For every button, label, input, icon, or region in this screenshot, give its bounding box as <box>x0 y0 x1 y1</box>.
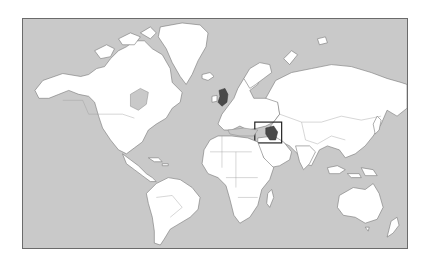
iceland <box>202 73 214 81</box>
world-map-svg <box>23 19 407 248</box>
new-zealand <box>387 217 399 237</box>
australia <box>337 184 383 224</box>
world-map <box>22 18 408 249</box>
novaya-zemlya <box>284 37 328 65</box>
south-america <box>146 178 200 245</box>
southeast-asia-islands <box>327 166 377 178</box>
mediterranean-sea <box>228 128 258 136</box>
madagascar <box>267 190 274 208</box>
ireland <box>212 95 217 102</box>
caribbean <box>148 158 168 166</box>
india <box>296 146 316 170</box>
tasmania <box>365 227 369 231</box>
united-kingdom <box>218 88 228 106</box>
north-america <box>35 41 182 154</box>
